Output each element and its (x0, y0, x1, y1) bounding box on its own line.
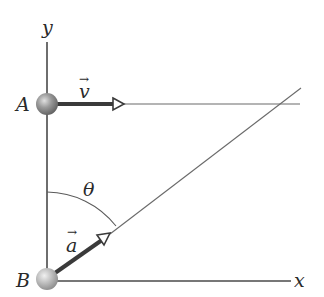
ball-b (36, 268, 58, 290)
y-axis-label: y (41, 16, 53, 38)
velocity-vector-mark: → (79, 72, 89, 86)
angle-label: θ (83, 178, 95, 200)
point-a-label: A (14, 93, 30, 115)
path-line-b (110, 88, 301, 234)
angle-arc (47, 192, 116, 226)
point-b-label: B (15, 269, 30, 291)
velocity-arrow-head (113, 98, 124, 110)
diagram-canvas: y x A B v → a → θ (0, 0, 324, 297)
ball-a (36, 93, 58, 115)
acceleration-vector-mark: → (67, 225, 77, 239)
x-axis-label: x (294, 269, 305, 291)
acceleration-arrow-shaft (55, 240, 102, 273)
